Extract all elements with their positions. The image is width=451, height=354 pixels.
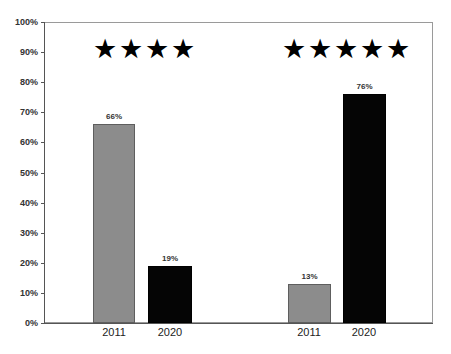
- bar-2011-group1: [93, 124, 135, 323]
- y-tick-label: 20%: [0, 258, 38, 268]
- y-tick-mark: [41, 173, 44, 174]
- y-tick-label: 100%: [0, 17, 38, 27]
- y-tick-mark: [41, 142, 44, 143]
- y-tick-label: 60%: [0, 137, 38, 147]
- x-label-group1-2020: 2020: [140, 326, 200, 338]
- y-tick-label: 70%: [0, 107, 38, 117]
- y-tick-mark: [41, 112, 44, 113]
- y-axis: [44, 22, 45, 324]
- bar-2020-group2: [343, 94, 386, 323]
- bar-value-label: 13%: [280, 272, 340, 281]
- bar-value-label: 66%: [84, 112, 144, 121]
- y-tick-mark: [41, 293, 44, 294]
- bar-2020-group1: [148, 266, 192, 323]
- y-tick-label: 0%: [0, 318, 38, 328]
- x-axis: [44, 323, 433, 324]
- y-tick-label: 90%: [0, 47, 38, 57]
- y-tick-mark: [41, 22, 44, 23]
- y-tick-mark: [41, 233, 44, 234]
- five-star-rating-icon: ★★★★★: [282, 35, 412, 63]
- y-tick-mark: [41, 52, 44, 53]
- y-tick-label: 40%: [0, 198, 38, 208]
- y-tick-mark: [41, 263, 44, 264]
- y-tick-mark: [41, 82, 44, 83]
- y-tick-label: 10%: [0, 288, 38, 298]
- y-tick-mark: [41, 203, 44, 204]
- grouped-bar-chart: 0%10%20%30%40%50%60%70%80%90%100% ★★★★ ★…: [0, 0, 451, 354]
- bar-value-label: 76%: [335, 82, 395, 91]
- four-star-rating-icon: ★★★★: [93, 35, 197, 63]
- x-label-group2-2011: 2011: [279, 326, 339, 338]
- x-label-group1-2011: 2011: [84, 326, 144, 338]
- y-tick-label: 80%: [0, 77, 38, 87]
- bar-2011-group2: [288, 284, 331, 323]
- y-tick-label: 50%: [0, 168, 38, 178]
- bar-value-label: 19%: [140, 254, 200, 263]
- x-label-group2-2020: 2020: [334, 326, 394, 338]
- y-tick-label: 30%: [0, 228, 38, 238]
- y-tick-mark: [41, 323, 44, 324]
